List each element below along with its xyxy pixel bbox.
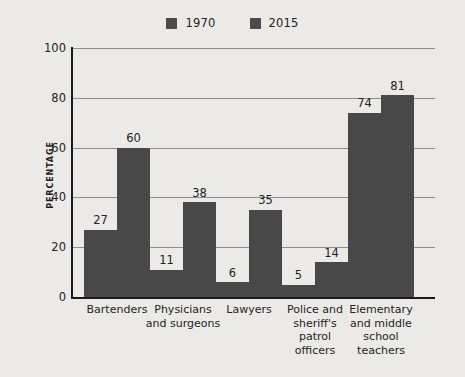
bar-bartenders-1970[interactable]: 27	[84, 230, 117, 297]
y-tick-80: 80	[4, 91, 66, 105]
legend-swatch-1970	[166, 18, 177, 29]
y-tick-40: 40	[4, 190, 66, 204]
bar-group-bartenders: 27 60	[84, 48, 150, 297]
bar-physicians-1970[interactable]: 11	[150, 270, 183, 297]
bar-group-teachers: 74 81	[348, 48, 414, 297]
legend-swatch-2015	[250, 18, 261, 29]
category-line: and middle	[338, 317, 424, 331]
bar-bartenders-2015[interactable]: 60	[117, 148, 150, 297]
bar-value-bartenders-2015: 60	[126, 133, 141, 145]
category-line: school	[338, 330, 424, 344]
x-axis-line	[71, 297, 435, 299]
bar-value-teachers-1970: 74	[357, 98, 372, 110]
category-line: Elementary	[338, 303, 424, 317]
legend-label-2015: 2015	[269, 18, 299, 30]
chart-legend: 1970 2015	[0, 18, 465, 30]
bar-teachers-1970[interactable]: 74	[348, 113, 381, 297]
bar-value-lawyers-1970: 6	[229, 268, 236, 280]
bar-group-physicians-and-surgeons: 11 38	[150, 48, 216, 297]
y-tick-60: 60	[4, 141, 66, 155]
legend-entry-2015: 2015	[250, 18, 299, 30]
bar-value-physicians-1970: 11	[159, 255, 174, 267]
bar-value-police-1970: 5	[295, 270, 302, 282]
bar-value-lawyers-2015: 35	[258, 195, 273, 207]
bar-group-police: 5 14	[282, 48, 348, 297]
bar-police-2015[interactable]: 14	[315, 262, 348, 297]
y-tick-0: 0	[4, 290, 66, 304]
x-axis-category-labels: Bartenders Physicians and surgeons Lawye…	[71, 303, 412, 377]
bar-value-teachers-2015: 81	[390, 81, 405, 93]
bar-value-police-2015: 14	[324, 248, 339, 260]
category-label-teachers: Elementary and middle school teachers	[338, 303, 424, 357]
legend-entry-1970: 1970	[166, 18, 215, 30]
bar-chart: 1970 2015 PERCENTAGE 100 80 60 40 20 0	[0, 0, 465, 377]
bar-lawyers-1970[interactable]: 6	[216, 282, 249, 297]
bar-group-lawyers: 6 35	[216, 48, 282, 297]
y-tick-20: 20	[4, 240, 66, 254]
category-line: and surgeons	[140, 317, 226, 331]
bar-lawyers-2015[interactable]: 35	[249, 210, 282, 297]
y-axis-tick-labels: 100 80 60 40 20 0	[0, 0, 66, 377]
y-tick-100: 100	[4, 41, 66, 55]
bar-physicians-2015[interactable]: 38	[183, 202, 216, 297]
bar-teachers-2015[interactable]: 81	[381, 95, 414, 297]
bar-value-bartenders-1970: 27	[93, 215, 108, 227]
category-line: teachers	[338, 344, 424, 358]
bars-layer: 27 60 11 38 6 35 5	[71, 48, 412, 297]
bar-value-physicians-2015: 38	[192, 188, 207, 200]
bar-police-1970[interactable]: 5	[282, 285, 315, 298]
legend-label-1970: 1970	[185, 18, 215, 30]
